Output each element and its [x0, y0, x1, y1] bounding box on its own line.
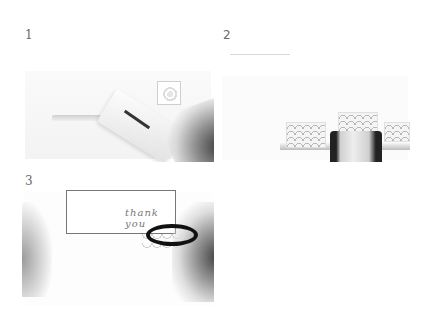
left-hand — [22, 202, 52, 297]
step-number: 3 — [25, 174, 33, 188]
punched-pattern-right — [384, 122, 410, 142]
caption-line — [230, 54, 290, 55]
punched-pattern-left — [286, 122, 326, 148]
step-3-panel: 3 thank you — [22, 172, 214, 309]
punch-pattern-icon — [157, 81, 181, 105]
right-hand — [172, 202, 214, 302]
step-number: 2 — [223, 28, 231, 42]
step-1-panel: 1 — [22, 26, 214, 162]
hand — [330, 131, 382, 162]
step-number: 1 — [25, 28, 33, 42]
step-2-panel: 2 — [220, 26, 410, 162]
scissors-handle-icon — [146, 224, 198, 246]
